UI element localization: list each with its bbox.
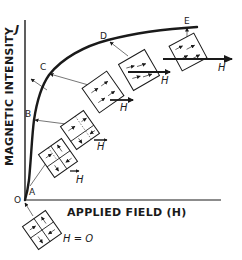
origin-label: O: [14, 196, 21, 205]
point-label-d: D: [100, 32, 107, 41]
domain-box-e: [169, 33, 207, 71]
point-label-b: B: [25, 110, 31, 119]
y-axis-label: MAGNETIC INTENSITY: [4, 27, 15, 166]
domain-box-b: [61, 111, 100, 150]
point-label-a: A: [29, 188, 35, 197]
magnetization-curve-diagram: [0, 0, 242, 260]
domain-box-h-zero: [23, 211, 62, 250]
zero-field-label: H = O: [63, 234, 93, 244]
point-label-e: E: [184, 17, 190, 26]
domain-box-c: [82, 71, 124, 113]
field-label-d: H: [161, 76, 169, 86]
leader-lines: [25, 28, 187, 216]
field-label-c: H: [120, 103, 128, 113]
field-label-a: H: [76, 175, 84, 185]
magnetization-curve: [25, 27, 197, 200]
field-label-b: H: [97, 142, 105, 152]
domain-box-d: [119, 50, 160, 91]
field-label-e: H: [218, 63, 226, 73]
point-label-c: C: [40, 63, 46, 72]
x-axis-label: APPLIED FIELD (H): [67, 207, 187, 218]
